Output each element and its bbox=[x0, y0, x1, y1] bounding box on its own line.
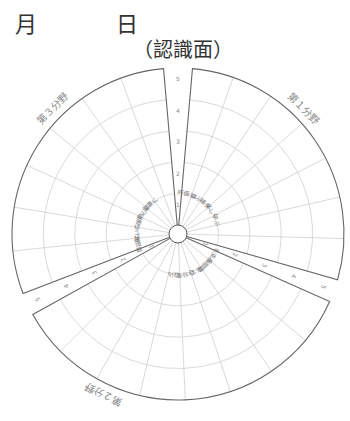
section-label: 第１分野 bbox=[285, 90, 322, 127]
scale-number: 4 bbox=[290, 273, 298, 279]
grid-spoke bbox=[186, 158, 326, 230]
grid-spoke bbox=[187, 234, 344, 238]
scale-number: 2 bbox=[231, 252, 239, 258]
scale-number: 2 bbox=[119, 256, 127, 263]
sector-outline-1 bbox=[179, 69, 344, 280]
scale-number: 1 bbox=[176, 201, 180, 208]
sector-outline-2 bbox=[33, 238, 330, 400]
grid-spoke bbox=[140, 243, 176, 396]
wedge-label: 取込 bbox=[168, 270, 181, 279]
grid-spoke bbox=[185, 124, 302, 228]
scale-number: 2 bbox=[176, 170, 180, 177]
scale-number: 3 bbox=[90, 270, 98, 277]
scale-number: 5 bbox=[33, 296, 41, 303]
center-hub bbox=[169, 225, 187, 243]
grid-spoke bbox=[13, 235, 169, 251]
section-label: 第３分野 bbox=[34, 90, 71, 127]
grid-spoke bbox=[50, 128, 171, 228]
grid-spoke bbox=[183, 96, 270, 226]
section-label: 第２分野 bbox=[82, 381, 123, 409]
grid-spoke bbox=[82, 98, 173, 226]
scale-number: 3 bbox=[176, 138, 180, 145]
radar-wheel-diagram: 評価し尊ぶ補う楽しく学ぶ第１分野を支援人間関来て自分を取込第２分野意図に解いて心… bbox=[0, 0, 350, 421]
scale-number: 4 bbox=[176, 107, 180, 114]
grid-spoke bbox=[185, 240, 305, 341]
scale-number: 4 bbox=[62, 283, 70, 290]
scale-number: 5 bbox=[320, 284, 328, 290]
grid-spoke bbox=[183, 241, 271, 371]
grid-spoke bbox=[178, 243, 185, 400]
scale-number: 3 bbox=[261, 263, 269, 269]
scale-number: 5 bbox=[176, 75, 180, 82]
